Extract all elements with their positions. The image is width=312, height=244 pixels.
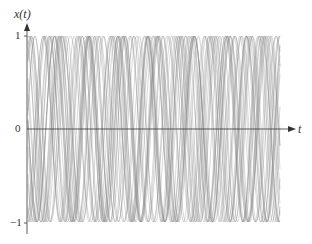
x-axis-arrow-icon bbox=[288, 126, 296, 132]
x-axis-label: t bbox=[298, 123, 301, 135]
y-tick-label-neg1: −1 bbox=[10, 217, 22, 228]
y-axis-label: x(t) bbox=[14, 8, 31, 20]
chart-plot-area bbox=[0, 0, 312, 244]
y-tick-label-1: 1 bbox=[15, 30, 21, 41]
y-axis-arrow-icon bbox=[24, 23, 30, 31]
y-tick-label-0: 0 bbox=[15, 123, 21, 134]
